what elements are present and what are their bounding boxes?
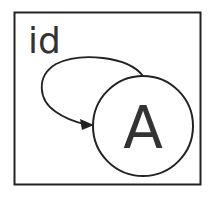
node-a-label: A <box>123 94 163 162</box>
arrowhead-icon <box>80 119 94 130</box>
frame-label: id <box>28 20 61 61</box>
diagram-canvas: id A <box>0 0 209 197</box>
